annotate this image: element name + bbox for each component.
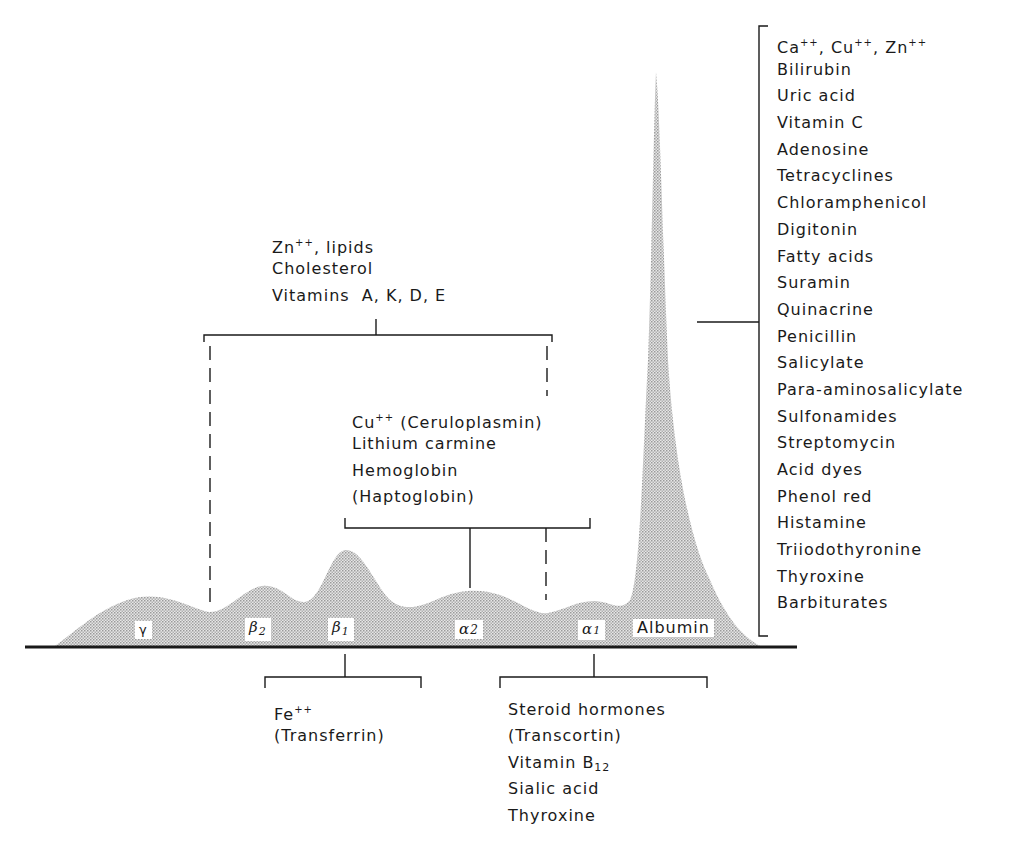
- albumin-group-line: Acid dyes: [777, 457, 963, 484]
- alpha2-subscript: 2: [470, 623, 479, 637]
- albumin-group-line: Tetracyclines: [777, 163, 963, 190]
- albumin-group-bracket: [697, 26, 768, 636]
- beta2-subscript: 2: [259, 625, 267, 638]
- beta1-label: β: [332, 618, 342, 636]
- alpha1-label: α: [582, 620, 593, 638]
- albumin-group-line: Ca++, Cu++, Zn++: [777, 30, 963, 57]
- albumin-group-line: Suramin: [777, 270, 963, 297]
- albumin-group-line: Barbiturates: [777, 590, 963, 617]
- albumin-group-line: Streptomycin: [777, 430, 963, 457]
- albumin-group-line: Thyroxine: [777, 564, 963, 591]
- alpha2-group-line: Lithium carmine: [352, 431, 543, 457]
- beta1-group-line: (Transferrin): [274, 723, 385, 749]
- beta1-group-line: Fe++: [274, 697, 385, 723]
- beta1-subscript: 1: [342, 625, 350, 638]
- fraction-label-albumin: Albumin: [633, 619, 714, 637]
- albumin-group-line: Bilirubin: [777, 57, 963, 84]
- albumin-group-line: Phenol red: [777, 484, 963, 511]
- albumin-group-text: Ca++, Cu++, Zn++ Bilirubin Uric acid Vit…: [777, 30, 963, 617]
- alpha1-subscript: 1: [593, 624, 601, 637]
- alpha1-group-line: Thyroxine: [508, 803, 666, 829]
- alpha2-label: α: [459, 620, 470, 638]
- beta-group-line: Zn++, lipids: [272, 230, 446, 256]
- alpha2-group-line: (Haptoglobin): [352, 484, 543, 510]
- alpha2-group-line: Hemoglobin: [352, 458, 543, 484]
- alpha1-group-line: Steroid hormones: [508, 697, 666, 723]
- fraction-label-alpha2: α2: [455, 620, 483, 639]
- albumin-group-line: Triiodothyronine: [777, 537, 963, 564]
- alpha2-group-line: Cu++ (Ceruloplasmin): [352, 405, 543, 431]
- beta-group-line: Cholesterol: [272, 256, 446, 282]
- alpha1-group-line: Vitamin B12: [508, 750, 666, 776]
- beta1-group-bracket: [265, 654, 421, 688]
- alpha1-group-line: (Transcortin): [508, 723, 666, 749]
- albumin-group-line: Fatty acids: [777, 244, 963, 271]
- alpha2-group-text: Cu++ (Ceruloplasmin) Lithium carmine Hem…: [352, 405, 543, 511]
- beta1-group-text: Fe++ (Transferrin): [274, 697, 385, 750]
- albumin-group-line: Quinacrine: [777, 297, 963, 324]
- albumin-group-line: Adenosine: [777, 137, 963, 164]
- beta-group-text: Zn++, lipids Cholesterol Vitamins A, K, …: [272, 230, 446, 309]
- alpha1-group-bracket: [500, 654, 707, 688]
- albumin-group-line: Vitamin C: [777, 110, 963, 137]
- albumin-group-line: Histamine: [777, 510, 963, 537]
- alpha1-group-line: Sialic acid: [508, 776, 666, 802]
- albumin-group-line: Uric acid: [777, 83, 963, 110]
- albumin-group-line: Digitonin: [777, 217, 963, 244]
- albumin-group-line: Salicylate: [777, 350, 963, 377]
- electrophoresis-curve: [55, 72, 760, 646]
- gamma-label: γ: [139, 622, 148, 637]
- albumin-group-line: Para-aminosalicylate: [777, 377, 963, 404]
- fraction-label-beta1: β1: [328, 618, 354, 641]
- fraction-label-gamma: γ: [135, 621, 152, 639]
- beta-group-line: Vitamins A, K, D, E: [272, 283, 446, 309]
- alpha1-group-text: Steroid hormones (Transcortin) Vitamin B…: [508, 697, 666, 829]
- albumin-label: Albumin: [637, 618, 710, 637]
- beta2-label: β: [249, 618, 259, 636]
- fraction-label-alpha1: α1: [578, 620, 605, 640]
- albumin-group-line: Sulfonamides: [777, 404, 963, 431]
- albumin-group-line: Penicillin: [777, 324, 963, 351]
- alpha2-group-bracket: [345, 518, 590, 600]
- albumin-group-line: Chloramphenicol: [777, 190, 963, 217]
- fraction-label-beta2: β2: [245, 618, 271, 641]
